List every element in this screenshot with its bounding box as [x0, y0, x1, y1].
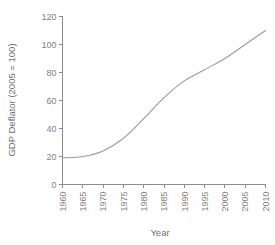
y-tick-label: 60 [46, 96, 56, 106]
x-tick-label: 2010 [261, 192, 271, 212]
x-tick-label: 1985 [159, 192, 169, 212]
x-tick-label: 2005 [240, 192, 250, 212]
x-tick-label: 1980 [139, 192, 149, 212]
y-tick-label: 40 [46, 124, 56, 134]
y-tick-label: 20 [46, 152, 56, 162]
x-tick-label: 1965 [78, 192, 88, 212]
x-tick-label: 1995 [200, 192, 210, 212]
chart-background [0, 0, 275, 245]
line-chart: 020406080100120 196019651970197519801985… [0, 0, 275, 245]
y-axis-title: GDP Deflator (2005 = 100) [6, 43, 17, 156]
x-axis-title: Year [150, 227, 169, 238]
x-tick-label: 2000 [220, 192, 230, 212]
y-tick-label: 100 [41, 40, 56, 50]
y-tick-label: 0 [51, 180, 56, 190]
chart-container: 020406080100120 196019651970197519801985… [0, 0, 275, 245]
x-tick-label: 1975 [119, 192, 129, 212]
x-tick-label: 1970 [98, 192, 108, 212]
y-tick-label: 80 [46, 68, 56, 78]
x-tick-label: 1990 [180, 192, 190, 212]
x-tick-label: 1960 [58, 192, 68, 212]
y-tick-label: 120 [41, 12, 56, 22]
